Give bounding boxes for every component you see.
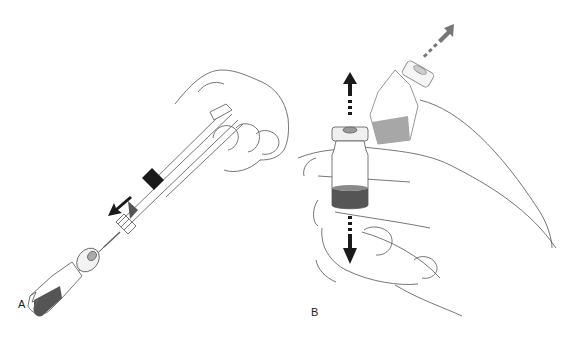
arrow-diagonal-icon xyxy=(423,24,454,58)
panel-label-b: B xyxy=(311,306,318,318)
vial-a-icon xyxy=(28,244,104,317)
vial-b-icon xyxy=(332,127,368,209)
arrow-down-icon xyxy=(343,216,357,264)
hand-a-icon xyxy=(175,70,289,172)
panel-label-a: A xyxy=(18,298,25,310)
illustration: A B xyxy=(0,0,573,340)
drawing xyxy=(0,0,573,340)
arrow-down-left-icon xyxy=(108,196,132,216)
arrow-up-icon xyxy=(343,72,357,115)
panel-a xyxy=(28,70,289,316)
